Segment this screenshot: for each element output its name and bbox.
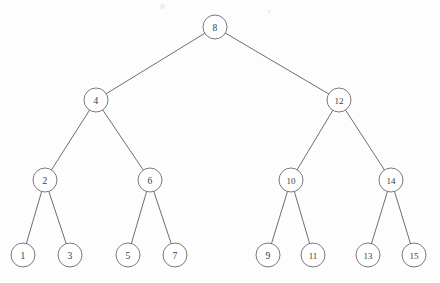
tree-edge-4-to-6 [103, 110, 144, 170]
tree-canvas: 841226101413579111315 [0, 0, 440, 283]
tree-edge-2-to-1 [26, 192, 41, 244]
tree-node-12[interactable]: 12 [327, 88, 351, 112]
tree-edge-6-to-7 [154, 191, 171, 243]
tree-node-7[interactable]: 7 [163, 243, 187, 267]
node-label-12: 12 [335, 96, 344, 106]
tree-edge-8-to-12 [225, 33, 328, 94]
node-label-10: 10 [287, 176, 296, 186]
tree-node-11[interactable]: 11 [301, 243, 325, 267]
node-label-15: 15 [410, 251, 419, 261]
node-label-2: 2 [43, 176, 48, 186]
node-label-8: 8 [213, 23, 218, 33]
tree-node-2[interactable]: 2 [33, 168, 57, 192]
binary-tree-figure: 841226101413579111315 [0, 0, 440, 283]
node-label-11: 11 [309, 251, 317, 261]
node-label-5: 5 [126, 251, 131, 261]
tree-edge-8-to-4 [106, 33, 205, 93]
tree-nodes-layer: 841226101413579111315 [11, 15, 426, 267]
tree-edge-2-to-3 [49, 191, 66, 243]
tree-node-9[interactable]: 9 [256, 243, 280, 267]
tree-node-6[interactable]: 6 [138, 168, 162, 192]
tree-edges-layer [26, 33, 410, 244]
tree-node-10[interactable]: 10 [279, 168, 303, 192]
tree-edge-14-to-15 [395, 191, 411, 243]
tree-edge-12-to-14 [346, 110, 385, 170]
tree-edge-14-to-13 [372, 191, 388, 243]
node-label-1: 1 [21, 251, 26, 261]
tree-edge-10-to-9 [272, 191, 288, 243]
node-label-13: 13 [364, 251, 373, 261]
tree-edge-12-to-10 [297, 110, 333, 169]
node-label-9: 9 [266, 251, 271, 261]
node-label-4: 4 [94, 96, 99, 106]
tree-node-15[interactable]: 15 [402, 243, 426, 267]
tree-node-8[interactable]: 8 [203, 15, 227, 39]
tree-node-3[interactable]: 3 [58, 243, 82, 267]
tree-node-14[interactable]: 14 [379, 168, 403, 192]
node-label-3: 3 [68, 251, 73, 261]
tree-edge-4-to-2 [51, 110, 89, 170]
tree-node-1[interactable]: 1 [11, 243, 35, 267]
node-label-6: 6 [148, 176, 153, 186]
node-label-7: 7 [173, 251, 178, 261]
tree-edge-6-to-5 [131, 192, 146, 244]
tree-node-5[interactable]: 5 [116, 243, 140, 267]
node-label-14: 14 [387, 176, 396, 186]
tree-node-13[interactable]: 13 [356, 243, 380, 267]
tree-edge-10-to-11 [294, 192, 309, 244]
tree-node-4[interactable]: 4 [84, 88, 108, 112]
